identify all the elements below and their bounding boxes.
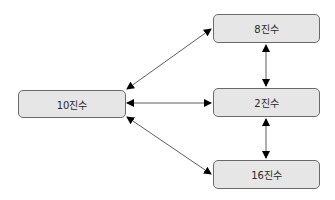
- node-decimal-label: 10진수: [57, 97, 88, 112]
- edge-decimal-hex: [127, 117, 211, 174]
- node-hex-label: 16진수: [251, 167, 282, 182]
- node-octal: 8진수: [213, 14, 320, 43]
- node-binary-label: 2진수: [254, 95, 278, 110]
- node-hex: 16진수: [213, 160, 320, 189]
- node-binary: 2진수: [213, 88, 320, 117]
- edge-decimal-octal: [127, 29, 211, 89]
- node-octal-label: 8진수: [254, 21, 278, 36]
- node-decimal: 10진수: [18, 90, 126, 118]
